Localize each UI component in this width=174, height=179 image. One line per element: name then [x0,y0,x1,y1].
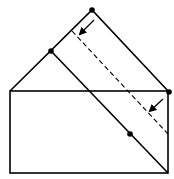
rectangle-body [10,91,168,173]
apex-dot [89,7,95,13]
dashed-fold-line [72,31,168,134]
right-corner-dot [166,89,172,95]
left-edge-dot [48,48,54,54]
diagonal-dot [127,131,133,137]
diagram-canvas [0,0,174,179]
triangle-flap [10,10,169,92]
folding-diagram [0,0,174,179]
lower-fold-arrow-icon [150,99,163,111]
solid-fold-line [51,51,168,173]
upper-fold-arrow-icon [80,20,94,34]
